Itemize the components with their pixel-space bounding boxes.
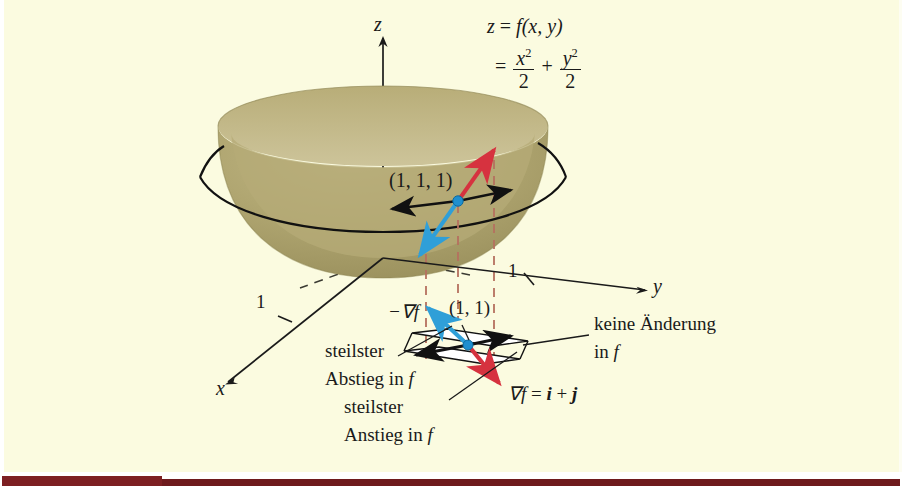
steepest-descent-caption-line1: steilster [325,340,384,362]
equation-line-2: = x2 2 + y2 2 [495,47,583,91]
footer-rule-right [162,479,900,486]
footer-rule-left [2,476,162,486]
axis-tick-label-y: 1 [508,261,518,280]
steepest-ascent-caption-line2: Anstieg in f [344,424,433,446]
axis-label-x: x [216,378,225,398]
axis-label-z: z [374,14,382,34]
axis-label-y: y [653,276,662,296]
paraboloid-surface [218,86,548,278]
point-label-2d: (1, 1) [449,297,490,319]
fraction-x-squared-over-2: x2 2 [513,47,534,91]
figure-canvas: z y x 1 1 z = f(x, y) = x2 2 + y2 2 (1, … [0,0,902,486]
axis-tick-label-x: 1 [256,292,266,311]
gradient-equation-label: ∇f = i + j [508,384,577,403]
fraction-y-squared-over-2: y2 2 [560,47,581,91]
steepest-ascent-caption-line1: steilster [344,396,403,418]
no-change-caption-line1: keine Änderung [594,313,716,335]
point-label-3d: (1, 1, 1) [389,169,452,192]
equation-line-1: z = f(x, y) [487,16,563,36]
negative-gradient-label: −∇f [388,300,419,323]
page-footer-rule [0,472,902,486]
diagram-svg [0,0,902,486]
axis-x [225,258,383,385]
steepest-descent-caption-line2: Abstieg in f [325,368,414,390]
no-change-caption-line2: in f [594,341,619,363]
